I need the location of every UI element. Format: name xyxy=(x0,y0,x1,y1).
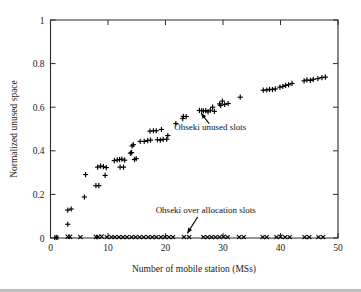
y-tick-label: 1 xyxy=(40,16,45,26)
plot-background xyxy=(0,0,361,292)
annotation-label-unused-slots: Ohseki unused slots xyxy=(174,122,246,132)
y-axis-title: Normalized unused space xyxy=(9,80,19,178)
y-tick-label: 0.4 xyxy=(33,146,45,156)
x-axis-title: Number of mobile station (MSs) xyxy=(132,264,256,275)
x-tick-label: 20 xyxy=(161,243,171,253)
y-tick-label: 0 xyxy=(40,234,45,244)
annotation-label-over-allocation-slots: Ohseki over allocation slots xyxy=(156,205,257,215)
figure-container: 01020304050 00.20.40.60.81 Ohseki unused… xyxy=(0,0,361,292)
y-tick-label: 0.2 xyxy=(33,190,45,200)
scatter-chart: 01020304050 00.20.40.60.81 Ohseki unused… xyxy=(0,0,361,292)
y-tick-label: 0.8 xyxy=(33,59,45,69)
x-tick-label: 40 xyxy=(276,243,286,253)
x-tick-label: 30 xyxy=(218,243,228,253)
x-tick-label: 50 xyxy=(333,243,343,253)
x-tick-label: 10 xyxy=(103,243,113,253)
y-tick-label: 0.6 xyxy=(33,103,45,113)
x-tick-label: 0 xyxy=(48,243,53,253)
